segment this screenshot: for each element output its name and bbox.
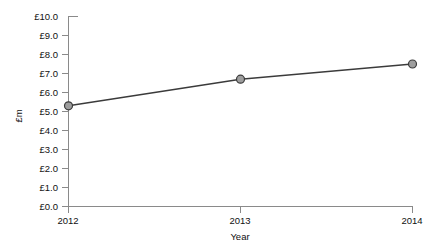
y-tick-label-0: £0.0 [40, 201, 59, 212]
y-tick-label-8: £8.0 [40, 49, 59, 60]
y-axis-ticks [62, 17, 78, 207]
x-tick-label-2013: 2013 [229, 215, 250, 226]
x-axis-tick-labels: 2012 2013 2014 [57, 215, 422, 226]
data-point-2012 [65, 102, 73, 110]
chart-canvas: £0.0 £1.0 £2.0 £3.0 £4.0 £5.0 £6.0 £7.0 … [0, 0, 433, 246]
y-tick-label-6: £6.0 [40, 87, 59, 98]
y-tick-label-1: £1.0 [40, 182, 59, 193]
y-tick-label-4: £4.0 [40, 125, 59, 136]
y-axis-tick-labels: £0.0 £1.0 £2.0 £3.0 £4.0 £5.0 £6.0 £7.0 … [34, 11, 58, 212]
x-axis-ticks [69, 207, 413, 214]
y-tick-label-5: £5.0 [40, 106, 59, 117]
x-axis: 2012 2013 2014 Year [57, 207, 422, 243]
y-tick-label-3: £3.0 [40, 144, 59, 155]
data-point-2014 [409, 60, 417, 68]
y-axis-title: £m [13, 109, 24, 122]
data-series [65, 60, 417, 110]
y-tick-label-7: £7.0 [40, 68, 59, 79]
x-tick-label-2012: 2012 [57, 215, 78, 226]
x-axis-title: Year [230, 231, 249, 242]
series-line [69, 64, 413, 106]
line-chart: £0.0 £1.0 £2.0 £3.0 £4.0 £5.0 £6.0 £7.0 … [0, 0, 433, 246]
y-tick-label-9: £9.0 [40, 30, 59, 41]
y-axis: £0.0 £1.0 £2.0 £3.0 £4.0 £5.0 £6.0 £7.0 … [13, 11, 78, 212]
data-point-2013 [237, 75, 245, 83]
x-tick-label-2014: 2014 [401, 215, 422, 226]
y-tick-label-2: £2.0 [40, 163, 59, 174]
series-markers [65, 60, 417, 110]
y-tick-label-10: £10.0 [34, 11, 58, 22]
